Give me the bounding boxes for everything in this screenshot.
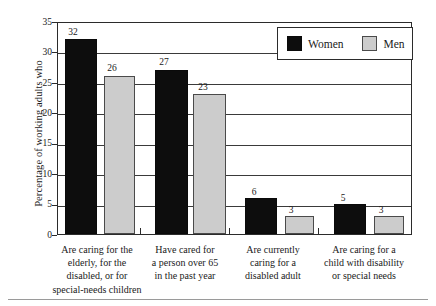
y-tick-label-5: 5 [12, 200, 52, 210]
bar-chart-figure: Percentage of working adults who 35 30 2… [0, 0, 436, 306]
bar-value-women-0: 32 [52, 28, 94, 38]
legend-swatch-men-icon [362, 36, 377, 51]
category-label-2-line-2: disabled adult [228, 269, 318, 282]
x-tick-separator-1 [140, 228, 141, 235]
bar-value-men-2: 3 [270, 206, 312, 216]
y-tick-label-35: 35 [12, 18, 52, 28]
bar-women-2[interactable] [245, 198, 277, 235]
category-label-3-line-1: child with disability [311, 256, 417, 269]
legend-swatch-women-icon [287, 36, 302, 51]
category-label-2: Are currently caring for a disabled adul… [228, 243, 318, 283]
category-label-3: Are caring for a child with disability o… [311, 243, 417, 283]
category-label-2-line-1: caring for a [228, 256, 318, 269]
category-label-0-line-0: Are caring for the [47, 243, 147, 256]
y-tick-label-30: 30 [12, 48, 52, 58]
bar-value-men-3: 3 [360, 206, 402, 216]
bar-men-1[interactable] [193, 94, 226, 234]
category-label-1: Have cared for a person over 65 in the p… [137, 243, 233, 283]
x-tick-separator-2 [229, 228, 230, 235]
category-label-3-line-2: or special needs [311, 269, 417, 282]
category-label-0: Are caring for the elderly, for the disa… [47, 243, 147, 296]
category-label-2-line-0: Are currently [228, 243, 318, 256]
category-label-0-line-3: special-needs children [47, 283, 147, 296]
legend-label-women: Women [308, 38, 343, 50]
legend-item-women[interactable]: Women [287, 36, 343, 51]
legend-item-men[interactable]: Men [362, 36, 404, 51]
y-tick-label-10: 10 [12, 170, 52, 180]
category-label-3-line-0: Are caring for a [311, 243, 417, 256]
footer-divider [8, 299, 428, 300]
bar-value-men-1: 23 [181, 83, 225, 93]
bar-value-women-1: 27 [142, 58, 186, 68]
chart-legend: Women Men [277, 27, 413, 60]
category-label-1-line-1: a person over 65 [137, 256, 233, 269]
bar-value-women-3: 5 [322, 194, 364, 204]
category-label-0-line-2: disabled, or for [47, 269, 147, 282]
bar-women-1[interactable] [155, 70, 188, 234]
y-tick-label-25: 25 [12, 79, 52, 89]
y-tick-label-20: 20 [12, 109, 52, 119]
y-tick-mark-0 [52, 235, 57, 236]
y-tick-label-0: 0 [12, 231, 52, 241]
bar-men-2[interactable] [285, 216, 314, 234]
bar-men-3[interactable] [374, 216, 404, 234]
category-label-1-line-0: Have cared for [137, 243, 233, 256]
legend-label-men: Men [383, 38, 404, 50]
bar-value-women-2: 6 [233, 188, 275, 198]
bar-men-0[interactable] [104, 76, 135, 234]
y-tick-label-15: 15 [12, 139, 52, 149]
category-label-0-line-1: elderly, for the [47, 256, 147, 269]
category-label-1-line-2: in the past year [137, 269, 233, 282]
x-tick-separator-3 [318, 228, 319, 235]
bar-value-men-0: 26 [91, 64, 133, 74]
